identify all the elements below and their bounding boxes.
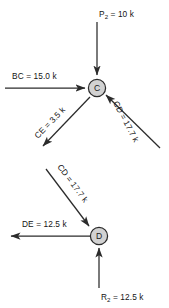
force-label-cd-upper: CD = 17.7 k <box>111 99 141 144</box>
force-label-bc: BC = 15.0 k <box>12 71 57 81</box>
force-label-p2: P2 = 10 k <box>99 9 135 20</box>
force-label-r2: R2 = 12.5 k <box>101 292 144 303</box>
joint-label-d: D <box>96 231 102 241</box>
force-label-cd-lower: CD = 17.7 k <box>55 162 91 205</box>
free-body-diagram-figure: C P2 = 10 k BC = 15.0 k CE = 3.5 k CD = … <box>0 0 169 308</box>
joint-c-group: C P2 = 10 k BC = 15.0 k CE = 3.5 k CD = … <box>5 9 160 148</box>
diagram-canvas: C P2 = 10 k BC = 15.0 k CE = 3.5 k CD = … <box>0 0 169 308</box>
joint-d-group: D CD = 17.7 k DE = 12.5 k R2 = 12.5 k <box>11 162 144 303</box>
force-label-de: DE = 12.5 k <box>22 219 67 229</box>
force-label-ce: CE = 3.5 k <box>32 104 67 140</box>
joint-label-c: C <box>94 83 100 93</box>
